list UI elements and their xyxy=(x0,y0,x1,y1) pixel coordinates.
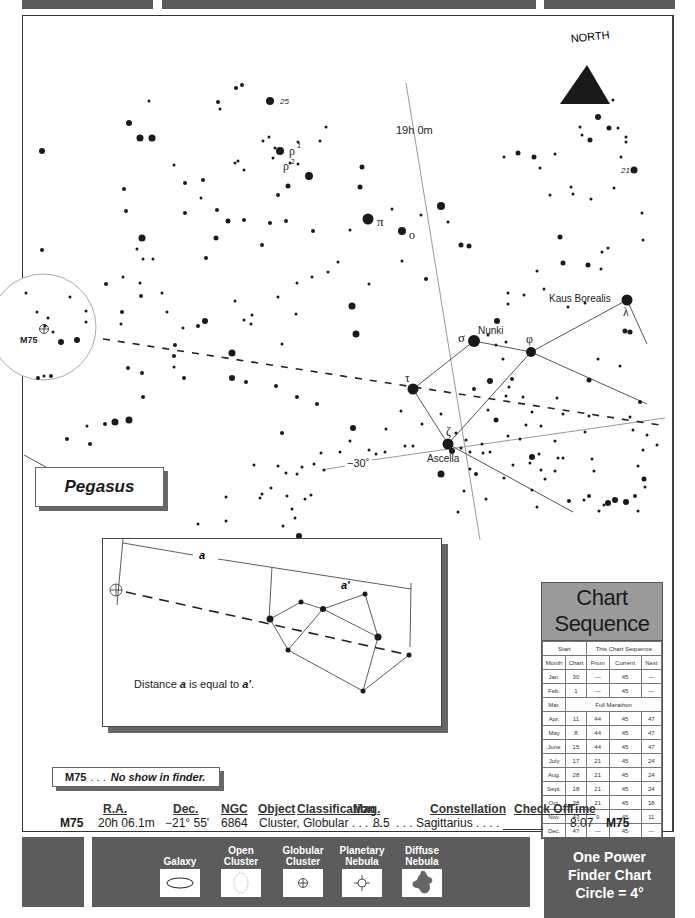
cell: 47 xyxy=(641,740,661,754)
header-check-off: Check Off xyxy=(514,802,571,816)
distance-caption: Distance a is equal to a'. xyxy=(134,678,254,690)
m75-map-label: M75 xyxy=(20,335,38,345)
north-label: NORTH xyxy=(570,28,610,44)
cell: 11 xyxy=(566,712,587,726)
table-row: Aug.28214524 xyxy=(543,768,662,782)
open-cluster-icon xyxy=(231,871,251,895)
rho2-sup: 2 xyxy=(291,158,295,165)
cell: Feb. xyxy=(543,684,566,698)
rho1-label: ρ xyxy=(289,144,295,158)
value-constellation: . . . Sagittarius . . . . ______ xyxy=(396,816,543,830)
cell: — xyxy=(586,684,609,698)
header-mag: Mag. xyxy=(353,802,380,816)
legend-diffuse-nebula: Diffuse Nebula xyxy=(394,837,450,897)
globular-cluster-icon xyxy=(40,325,49,334)
planetary-nebula-icon xyxy=(353,874,371,892)
table-row: Feb.1—45— xyxy=(543,684,662,698)
table-row: June15444547 xyxy=(543,740,662,754)
object-id-right: M75 xyxy=(606,816,629,830)
cell: 24 xyxy=(641,768,661,782)
cell: — xyxy=(586,670,609,684)
cell: 21 xyxy=(586,754,609,768)
star-hop-line xyxy=(103,339,660,425)
header-time: Time xyxy=(568,802,596,816)
a-label: a xyxy=(199,549,205,561)
col-month: Month xyxy=(543,656,566,670)
legend-label: Diffuse Nebula xyxy=(394,837,450,869)
cell: 21 xyxy=(586,782,609,796)
star-21-label: 21 xyxy=(620,166,630,175)
value-time: 8:07 xyxy=(570,816,593,830)
table-row: Mar.Full Marathon xyxy=(543,698,662,712)
cell: 45 xyxy=(609,740,641,754)
dec-label: −30˚ xyxy=(347,457,369,469)
note-object: M75 xyxy=(65,771,86,783)
table-row: Sept.18214524 xyxy=(543,782,662,796)
cell: Full Marathon xyxy=(566,698,662,712)
cell: 45 xyxy=(609,796,641,810)
cell: Apr. xyxy=(543,712,566,726)
cell: — xyxy=(641,670,661,684)
legend-open-cluster: Open Cluster xyxy=(213,837,269,897)
header-constellation: Constellation xyxy=(430,802,506,816)
cell: June xyxy=(543,740,566,754)
zeta-label: ζ xyxy=(446,424,451,438)
cell: 45 xyxy=(609,670,641,684)
cell: 15 xyxy=(566,740,587,754)
rho1-sup: 1 xyxy=(297,142,301,149)
col-from: From xyxy=(586,656,609,670)
tau-label: τ xyxy=(405,371,410,385)
legend-label: Open Cluster xyxy=(213,837,269,869)
cell: 44 xyxy=(586,712,609,726)
cell: 21 xyxy=(586,768,609,782)
star-25-label: 25 xyxy=(279,97,289,106)
object-id: M75 xyxy=(60,816,83,830)
cell: 45 xyxy=(609,684,641,698)
finder-line3: Circle = 4° xyxy=(544,884,675,902)
cell: 44 xyxy=(586,740,609,754)
cell: 30 xyxy=(566,670,587,684)
note-dots: . . . xyxy=(90,771,105,783)
header-ra: R.A. xyxy=(103,802,127,816)
value-ra: 20h 06.1m xyxy=(98,816,155,830)
finder-line1: One Power xyxy=(544,848,675,866)
col-current: Current xyxy=(609,656,641,670)
constellation-label-box: Pegasus xyxy=(35,467,164,507)
phi-label: φ xyxy=(526,332,533,346)
cell: 1 xyxy=(566,684,587,698)
cell: 18 xyxy=(641,796,661,810)
cell: 45 xyxy=(609,726,641,740)
cell: Mar. xyxy=(543,698,566,712)
rho2-label: ρ xyxy=(283,159,289,173)
legend-label: Galaxy xyxy=(152,837,208,869)
group-header-sequence: This Chart Sequence xyxy=(586,642,661,656)
table-row: May8444547 xyxy=(543,726,662,740)
legend-bar-left xyxy=(22,837,84,907)
note-text: No show in finder. xyxy=(111,771,206,783)
cell: 8 xyxy=(566,726,587,740)
group-header-start: Start xyxy=(543,642,587,656)
constellation-label: Pegasus xyxy=(65,477,135,497)
table-row: Apr.11444547 xyxy=(543,712,662,726)
value-classification: Cluster, Globular . . . . . . xyxy=(259,816,388,830)
caption-text: . xyxy=(251,678,254,690)
cell: — xyxy=(641,824,661,838)
table-row: Jan.30—45— xyxy=(543,670,662,684)
cell: 24 xyxy=(641,782,661,796)
header-dec: Dec. xyxy=(173,802,198,816)
nunki-label: Nunki xyxy=(478,325,504,336)
col-chart: Chart xyxy=(566,656,587,670)
cell: Aug. xyxy=(543,768,566,782)
table-row: July17214524 xyxy=(543,754,662,768)
ra-label: 19h 0m xyxy=(396,124,433,136)
value-dec: −21° 55' xyxy=(165,816,209,830)
cell: 45 xyxy=(609,754,641,768)
cell: Sept. xyxy=(543,782,566,796)
omicron-label: o xyxy=(409,228,415,242)
legend-bar: Galaxy Open Cluster Globular Cluster Pla… xyxy=(92,837,530,907)
value-ngc: 6864 xyxy=(221,816,248,830)
pi-label: π xyxy=(377,214,384,229)
finder-note: M75 . . . No show in finder. xyxy=(52,767,220,787)
col-next: Next xyxy=(641,656,661,670)
caption-text: Distance xyxy=(134,678,180,690)
